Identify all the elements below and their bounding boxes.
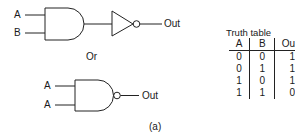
cell-b: 0 xyxy=(250,51,275,64)
and-gate-icon xyxy=(25,8,112,40)
input-label-a: A xyxy=(14,10,21,20)
truth-table: A B Ou 0 0 1 0 1 1 1 0 1 1 1 0 xyxy=(229,38,295,99)
table-header-row: A B Ou xyxy=(229,38,295,51)
table-row: 1 1 0 xyxy=(229,87,295,99)
cell-out: 1 xyxy=(275,75,295,87)
or-separator: Or xyxy=(86,52,97,62)
input-label-b: B xyxy=(14,28,21,38)
cell-out: 1 xyxy=(275,51,295,64)
header-b: B xyxy=(250,38,275,51)
header-out: Ou xyxy=(275,38,295,51)
not-gate-icon xyxy=(112,11,162,36)
table-row: 1 0 1 xyxy=(229,75,295,87)
cell-a: 1 xyxy=(229,75,250,87)
cell-out: 0 xyxy=(275,87,295,99)
table-row: 0 1 1 xyxy=(229,63,295,75)
cell-out: 1 xyxy=(275,63,295,75)
table-row: 0 0 1 xyxy=(229,51,295,64)
cell-b: 0 xyxy=(250,75,275,87)
header-a: A xyxy=(229,38,250,51)
figure-caption: (a) xyxy=(149,122,161,132)
output-label-2: Out xyxy=(142,91,158,101)
cell-b: 1 xyxy=(250,87,275,99)
cell-b: 1 xyxy=(250,63,275,75)
output-label: Out xyxy=(164,19,180,29)
nand-gate-icon xyxy=(55,80,139,111)
input-label-a: A xyxy=(44,81,51,91)
input-label-a-2: A xyxy=(44,100,51,110)
truth-table-title: Truth table xyxy=(226,27,271,38)
cell-a: 0 xyxy=(229,63,250,75)
cell-a: 0 xyxy=(229,51,250,64)
cell-a: 1 xyxy=(229,87,250,99)
